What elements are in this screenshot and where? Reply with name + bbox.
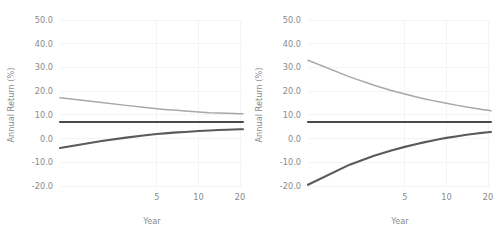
chart-panel-right: 50.040.030.020.010.00.0-10.0-20.0 51020 … <box>250 0 500 238</box>
y-tick-label: 40.0 <box>35 39 53 49</box>
ytick-labels-left: 50.040.030.020.010.00.0-10.0-20.0 <box>32 15 53 191</box>
chart-svg-right: 50.040.030.020.010.00.0-10.0-20.0 51020 … <box>250 0 500 238</box>
y-tick-label: 10.0 <box>283 110 301 120</box>
xtick-labels-right: 51020 <box>402 192 493 202</box>
x-tick-label: 20 <box>235 192 245 202</box>
y-tick-label: 50.0 <box>283 15 301 25</box>
x-axis-title-right: Year <box>390 216 409 226</box>
xtick-labels-left: 51020 <box>154 192 245 202</box>
x-tick-label: 20 <box>483 192 493 202</box>
y-tick-label: 20.0 <box>283 86 301 96</box>
gridlines-left <box>60 20 243 186</box>
y-tick-label: 40.0 <box>283 39 301 49</box>
chart-svg-left: 50.040.030.020.010.00.0-10.0-20.0 51020 … <box>0 0 250 238</box>
y-tick-label: 30.0 <box>283 62 301 72</box>
x-tick-label: 10 <box>441 192 451 202</box>
x-tick-label: 10 <box>193 192 203 202</box>
x-tick-label: 5 <box>402 192 407 202</box>
y-tick-label: -10.0 <box>32 157 53 167</box>
curve-upper-bound <box>60 98 243 114</box>
y-tick-label: -20.0 <box>280 181 301 191</box>
y-tick-label: 20.0 <box>35 86 53 96</box>
x-tick-label: 5 <box>154 192 159 202</box>
figure-two-panel-chart: 50.040.030.020.010.00.0-10.0-20.0 51020 … <box>0 0 501 238</box>
data-curves-right <box>308 60 491 185</box>
y-axis-title-left: Annual Return (%) <box>6 67 16 142</box>
y-tick-label: 0.0 <box>288 134 301 144</box>
y-axis-title-right: Annual Return (%) <box>254 67 264 142</box>
curve-lower-bound <box>308 132 491 185</box>
y-tick-label: 50.0 <box>35 15 53 25</box>
gridlines-right <box>308 20 491 186</box>
y-tick-label: 30.0 <box>35 62 53 72</box>
ytick-labels-right: 50.040.030.020.010.00.0-10.0-20.0 <box>280 15 301 191</box>
data-curves-left <box>60 98 243 148</box>
y-tick-label: 0.0 <box>40 134 53 144</box>
chart-panel-left: 50.040.030.020.010.00.0-10.0-20.0 51020 … <box>0 0 250 238</box>
y-tick-label: -20.0 <box>32 181 53 191</box>
x-axis-title-left: Year <box>142 216 161 226</box>
y-tick-label: -10.0 <box>280 157 301 167</box>
y-tick-label: 10.0 <box>35 110 53 120</box>
